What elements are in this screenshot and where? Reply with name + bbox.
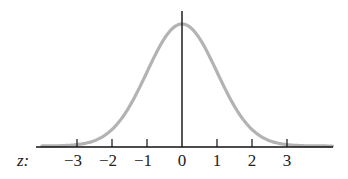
bell-curve [42,24,333,146]
x-tick-label: −2 [99,151,117,170]
x-tick-label: 2 [248,151,257,170]
x-tick-label: 3 [283,151,292,170]
x-tick-label: 1 [213,151,222,170]
normal-curve-chart: −3−2−10123 z: [0,0,348,179]
x-tick-label: −1 [134,151,152,170]
x-tick-label: 0 [178,151,187,170]
x-axis-ticks: −3−2−10123 [64,139,291,170]
z-axis-label: z: [16,151,29,170]
x-tick-label: −3 [64,151,82,170]
